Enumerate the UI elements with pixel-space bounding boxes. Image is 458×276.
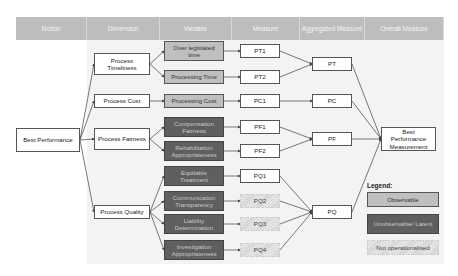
legend-title: Legend: bbox=[367, 182, 392, 189]
measure-pq2: PQ2 bbox=[240, 194, 280, 208]
aggregated-pf: PF bbox=[312, 132, 352, 146]
measure-pf2: PF2 bbox=[240, 144, 280, 158]
measure-pq3: PQ3 bbox=[240, 217, 280, 231]
dimension-process-cost: Process Cost bbox=[94, 94, 150, 108]
variable-communication-transparency: Communication Transparency bbox=[164, 191, 224, 211]
legend-latent: Unobservable/ Latent bbox=[367, 214, 439, 234]
measure-pt1: PT1 bbox=[240, 44, 280, 58]
overall-best-performance-measurement: Best Performance Measurement bbox=[381, 127, 436, 151]
aggregated-pt: PT bbox=[312, 57, 352, 71]
variable-processing-cost: Processing Cost bbox=[164, 94, 224, 108]
measure-pf1: PF1 bbox=[240, 120, 280, 134]
measure-pt2: PT2 bbox=[240, 70, 280, 84]
aggregated-pq: PQ bbox=[312, 205, 352, 219]
measure-pq1: PQ1 bbox=[240, 169, 280, 183]
measure-pq4: PQ4 bbox=[240, 243, 280, 257]
dimension-process-timeliness: Process Timeliness bbox=[94, 53, 150, 75]
variable-equitable-treatment: Equitable Treatment bbox=[164, 166, 224, 186]
legend-not-operationalised: Not operationalised bbox=[367, 240, 439, 255]
dimension-process-fairness: Process Fairness bbox=[94, 128, 150, 150]
variable-liability-determination: Liability Determination bbox=[164, 214, 224, 234]
legend-observable: Observable bbox=[367, 192, 439, 207]
variable-rehabilitation-appropriateness: Rehabilitation Appropriateness bbox=[164, 141, 224, 161]
dimension-process-quality: Process Quality bbox=[94, 205, 150, 219]
notion-best-performance: Best Performance bbox=[16, 128, 80, 152]
variable-investigation-appropriateness: Investigation Appropriateness bbox=[164, 240, 224, 260]
measure-pc1: PC1 bbox=[240, 94, 280, 108]
variable-over-legislated-time: Over legislated time bbox=[164, 41, 224, 61]
variable-processing-time: Processing Time bbox=[164, 70, 224, 84]
variable-compensation-fairness: Compensation Fairness bbox=[164, 117, 224, 137]
aggregated-pc: PC bbox=[312, 94, 352, 108]
